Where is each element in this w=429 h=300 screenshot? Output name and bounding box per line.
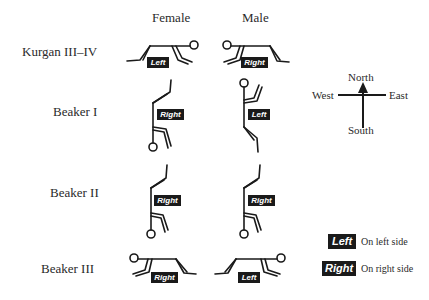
tag-beaker1-male: Left (248, 109, 270, 120)
compass-east: East (389, 89, 408, 101)
legend-text-right: On right side (361, 263, 413, 274)
legend-tag-right: Right (322, 261, 356, 276)
tag-beaker2-female: Right (154, 195, 181, 206)
legend-text-left: On left side (361, 236, 408, 247)
tag-beaker2-male: Right (248, 195, 275, 206)
tag-kurgan-male: Right (241, 57, 268, 68)
compass-west: West (312, 89, 334, 101)
compass-north: North (348, 71, 374, 83)
tag-beaker3-female: Right (151, 272, 178, 283)
legend-tag-left: Left (328, 234, 356, 249)
tag-beaker3-male: Left (238, 272, 260, 283)
burial-figures (0, 0, 429, 300)
tag-kurgan-female: Left (147, 57, 169, 68)
compass (338, 82, 386, 128)
tag-beaker1-female: Right (157, 109, 184, 120)
compass-south: South (348, 124, 374, 136)
